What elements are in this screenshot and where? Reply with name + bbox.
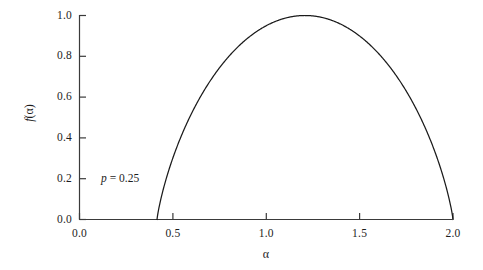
parameter-equals: = [107,172,119,184]
spectrum-curve [157,16,453,220]
parameter-annotation: p = 0.25 [101,172,139,184]
x-tick-label-4: 2.0 [446,228,461,240]
y-axis-ticks [80,16,87,220]
x-axis-ticks [80,213,454,220]
y-axis-title-paren-open: ( [22,114,36,118]
y-axis-title-paren-close: ) [22,104,36,108]
x-tick-label-3: 1.5 [352,228,367,240]
x-tick-label-0: 0.0 [72,228,87,240]
parameter-value: 0.25 [119,172,139,184]
x-tick-label-2: 1.0 [259,228,274,240]
x-axis-title: α [263,247,269,262]
y-axis-title: f(α) [22,104,37,122]
y-tick-label-5: 1.0 [40,10,72,22]
y-tick-label-4: 0.8 [40,51,72,63]
x-tick-label-1: 0.5 [165,228,180,240]
y-tick-label-0: 0.0 [40,214,72,226]
figure-canvas: 0.0 0.2 0.4 0.6 0.8 1.0 0.0 0.5 1.0 1.5 … [0,0,483,270]
y-axis-title-function: f [22,118,36,121]
y-tick-label-3: 0.6 [40,91,72,103]
y-axis-title-argument: α [22,108,36,114]
y-tick-label-1: 0.2 [40,173,72,185]
y-tick-label-2: 0.4 [40,132,72,144]
